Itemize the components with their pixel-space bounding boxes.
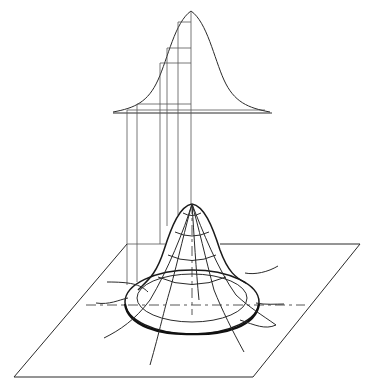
gaussian-diagram	[0, 0, 375, 391]
bell-surface-3d	[96, 204, 284, 365]
bell-curve-2d	[113, 11, 272, 113]
bell-curve-path	[113, 11, 270, 112]
flow-line	[107, 282, 148, 292]
base-plane	[14, 204, 360, 377]
